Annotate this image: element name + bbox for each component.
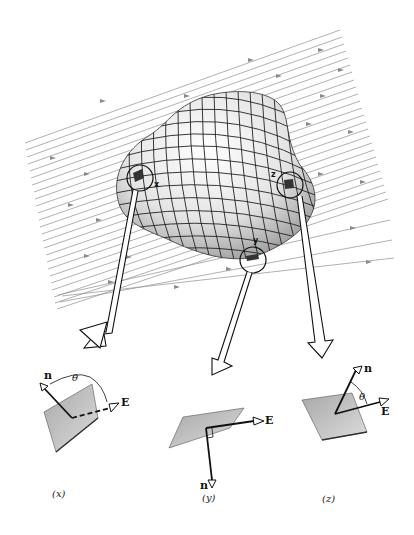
zoom-arrow-z [297,196,333,358]
zoom-arrow-y [212,272,252,375]
panel-x [40,375,119,452]
normal-label-x: n [44,369,52,382]
caption-y: (y) [202,492,215,503]
zoom-arrow-x [80,190,138,348]
normal-label-z: n [364,362,372,375]
marker-label-y: y [253,236,258,245]
panel-y [169,408,264,488]
caption-z: (z) [322,493,335,504]
normal-vector-y [206,428,212,480]
marker-label-z: z [271,170,276,179]
patch-z [284,179,294,189]
field-label-z: E [381,405,389,418]
panel-z [302,366,389,440]
angle-label-z: θ [359,391,365,402]
field-label-x: E [121,396,129,409]
marker-label-x: x [154,180,159,189]
figure-canvas [0,0,414,535]
caption-x: (x) [52,488,65,499]
field-label-y: E [265,414,273,427]
plate-z [302,393,367,440]
normal-label-y: n [200,479,208,492]
angle-label-x: θ [72,372,78,383]
